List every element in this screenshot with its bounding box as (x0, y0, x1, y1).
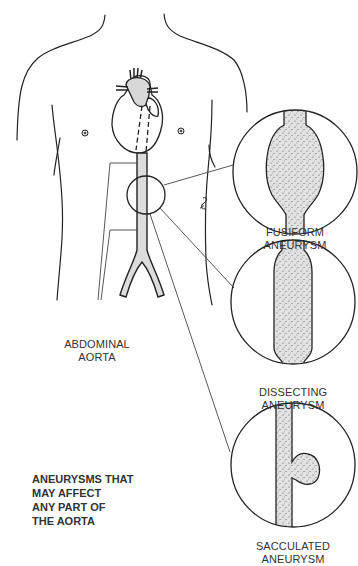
torso-outline (17, 14, 247, 305)
leader-lines (98, 163, 234, 452)
fusiform-aneurysm-detail (233, 108, 357, 240)
heart-icon (112, 68, 163, 153)
label-dissecting-aneurysm: DISSECTING ANEURYSM (248, 386, 338, 412)
label-abdominal-aorta: ABDOMINAL AORTA (52, 338, 142, 364)
abdominal-aorta (120, 153, 164, 297)
label-sacculated-aneurysm: SACCULATED ANEURYSM (248, 540, 338, 566)
sacculated-aneurysm-detail (231, 400, 355, 530)
dissecting-aneurysm-detail (231, 238, 355, 370)
label-fusiform-aneurysm: FUSIFORM ANEURYSM (250, 226, 340, 252)
aorta-note: ANEURYSMS THAT MAY AFFECT ANY PART OF TH… (32, 472, 133, 528)
